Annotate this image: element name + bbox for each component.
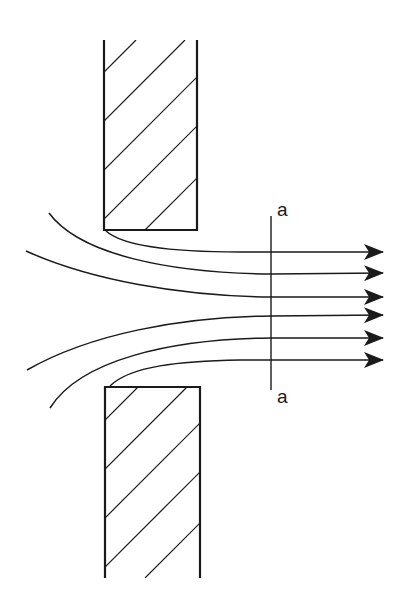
section-label-top: a xyxy=(277,199,288,220)
upper-wall-outline xyxy=(104,40,197,230)
upper-wall-hatching xyxy=(104,40,332,230)
lower-wall-outline xyxy=(105,387,200,578)
lower-wall xyxy=(105,387,334,578)
streamline-2 xyxy=(49,213,383,274)
streamline-6 xyxy=(110,360,383,386)
streamline-1 xyxy=(106,231,383,252)
orifice-flow-diagram: a a xyxy=(0,0,411,612)
streamlines xyxy=(26,213,383,408)
section-line-a-a: a a xyxy=(271,199,288,407)
upper-wall xyxy=(104,40,332,230)
streamline-5 xyxy=(50,338,383,408)
section-label-bottom: a xyxy=(277,386,288,407)
lower-wall-hatching xyxy=(105,387,334,578)
